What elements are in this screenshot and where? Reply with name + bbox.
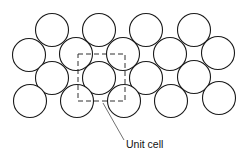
unit-cell-label: Unit cell: [126, 138, 163, 150]
atom-lattice: [13, 14, 236, 118]
atom-circle: [155, 85, 188, 118]
atom-circle: [203, 82, 236, 115]
atom-circle: [14, 85, 47, 118]
atom-circle: [36, 14, 69, 47]
atom-circle: [202, 37, 235, 70]
close-packed-atom-diagram: [0, 0, 251, 159]
